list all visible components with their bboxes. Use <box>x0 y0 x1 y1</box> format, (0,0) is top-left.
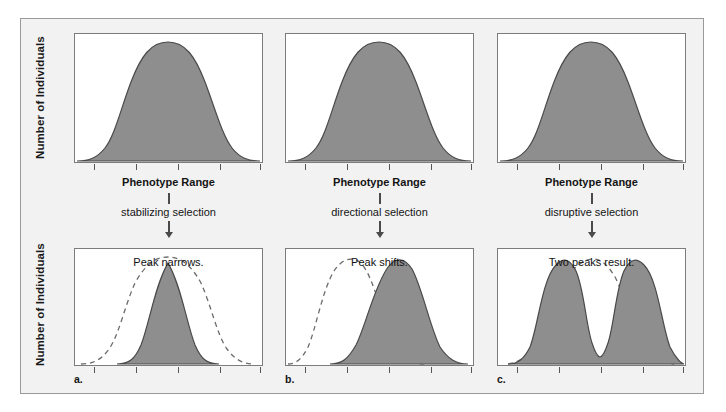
x-axis-ticks-a-top <box>74 164 263 170</box>
natural-selection-figure: Number of Individuals Number of Individu… <box>0 0 726 412</box>
curve-c-top <box>498 34 685 162</box>
arrow-down-icon <box>165 232 173 238</box>
selection-arrow-b: directional selection <box>284 193 475 238</box>
arrow-stem-icon <box>168 221 170 232</box>
selection-arrow-c: disruptive selection <box>496 193 687 238</box>
arrow-down-icon <box>376 232 384 238</box>
arrow-down-icon <box>588 232 596 238</box>
arrow-stem-icon <box>591 193 593 204</box>
y-axis-label-top: Number of Individuals <box>34 33 46 163</box>
y-axis-label-bottom: Number of Individuals <box>34 248 46 366</box>
panel-caption-a: a. <box>74 373 83 385</box>
distribution-curve-filled <box>500 42 683 161</box>
selection-label-a: stabilizing selection <box>73 206 264 219</box>
selection-arrow-a: stabilizing selection <box>73 193 264 238</box>
panel-caption-c: c. <box>497 373 506 385</box>
annotation-two-peaks: Two peaks result. <box>497 256 686 268</box>
x-axis-ticks-c-bottom <box>497 367 686 373</box>
selection-label-c: disruptive selection <box>496 206 687 219</box>
x-axis-label-b: Phenotype Range <box>285 176 474 188</box>
bimodal-distribution-filled <box>508 260 684 364</box>
arrow-stem-icon <box>168 193 170 204</box>
panel-caption-b: b. <box>285 373 294 385</box>
x-axis-label-a: Phenotype Range <box>74 176 263 188</box>
distribution-curve-filled <box>288 42 471 161</box>
chart-panel-b-top <box>285 33 474 163</box>
curve-b-top <box>286 34 473 162</box>
chart-panel-a-top <box>74 33 263 163</box>
chart-panel-c-top <box>497 33 686 163</box>
annotation-peak-narrows: Peak narrows. <box>74 256 263 268</box>
x-axis-ticks-a-bottom <box>74 367 263 373</box>
narrowed-distribution-filled <box>117 263 219 364</box>
arrow-stem-icon <box>379 193 381 204</box>
selection-label-b: directional selection <box>284 206 475 219</box>
curve-a-top <box>75 34 262 162</box>
annotation-peak-shifts: Peak shifts. <box>285 256 474 268</box>
x-axis-ticks-b-bottom <box>285 367 474 373</box>
x-axis-label-c: Phenotype Range <box>497 176 686 188</box>
distribution-curve-filled <box>77 42 260 161</box>
shifted-distribution-filled <box>330 260 468 364</box>
x-axis-ticks-c-top <box>497 164 686 170</box>
x-axis-ticks-b-top <box>285 164 474 170</box>
arrow-stem-icon <box>591 221 593 232</box>
arrow-stem-icon <box>379 221 381 232</box>
